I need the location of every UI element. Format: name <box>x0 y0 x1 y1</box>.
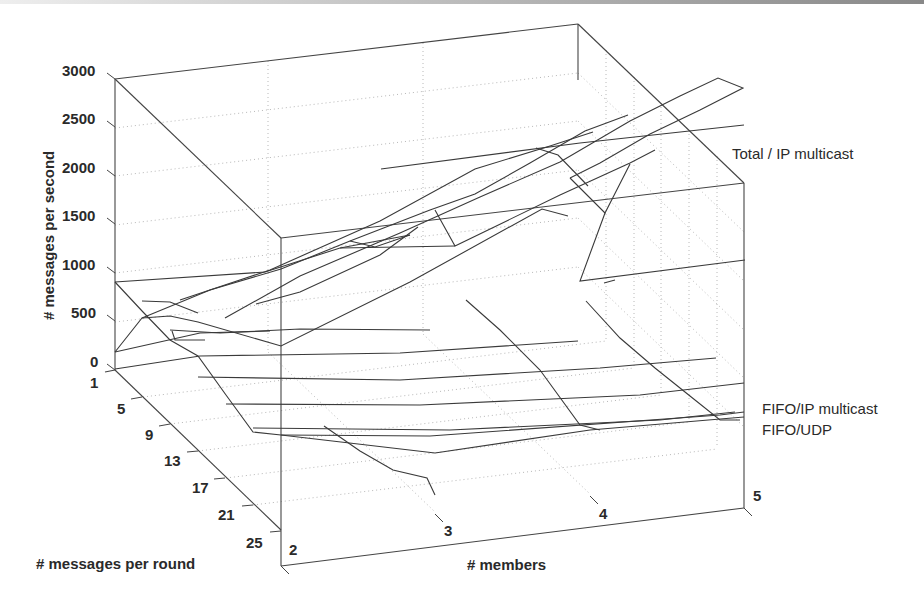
x-tick-3: 3 <box>444 522 452 539</box>
z-tick-1000: 1000 <box>62 256 95 273</box>
z-tick-0: 0 <box>90 353 98 370</box>
y-tick-5: 5 <box>117 400 125 417</box>
y-tick-13: 13 <box>164 452 181 469</box>
z-tick-2500: 2500 <box>62 110 95 127</box>
z-tick-3000: 3000 <box>62 62 95 79</box>
y-ticks <box>131 397 281 532</box>
fifo-surfaces <box>115 282 744 495</box>
z-tick-500: 500 <box>71 304 96 321</box>
y-tick-21: 21 <box>218 506 235 523</box>
x-tick-2: 2 <box>289 541 297 558</box>
x-tick-4: 4 <box>599 505 607 522</box>
grid-lines <box>115 43 744 511</box>
series-label-fifo-ip-multicast: FIFO/IP multicast <box>762 400 878 417</box>
y-axis-label: # messages per round <box>36 555 195 572</box>
y-tick-17: 17 <box>192 479 209 496</box>
z-axis-label: # messages per second <box>40 151 57 320</box>
z-tick-2000: 2000 <box>62 159 95 176</box>
z-tick-1500: 1500 <box>62 207 95 224</box>
series-label-fifo-udp: FIFO/UDP <box>762 421 832 438</box>
y-tick-9: 9 <box>145 426 153 443</box>
series-label-total-ip-multicast: Total / IP multicast <box>732 145 853 162</box>
x-tick-5: 5 <box>753 487 761 504</box>
surface-plot <box>0 0 924 598</box>
x-axis-label: # members <box>467 556 546 573</box>
z-ticks <box>107 73 115 370</box>
y-tick-25: 25 <box>246 534 263 551</box>
y-tick-1: 1 <box>90 374 98 391</box>
total-surface <box>115 78 745 352</box>
